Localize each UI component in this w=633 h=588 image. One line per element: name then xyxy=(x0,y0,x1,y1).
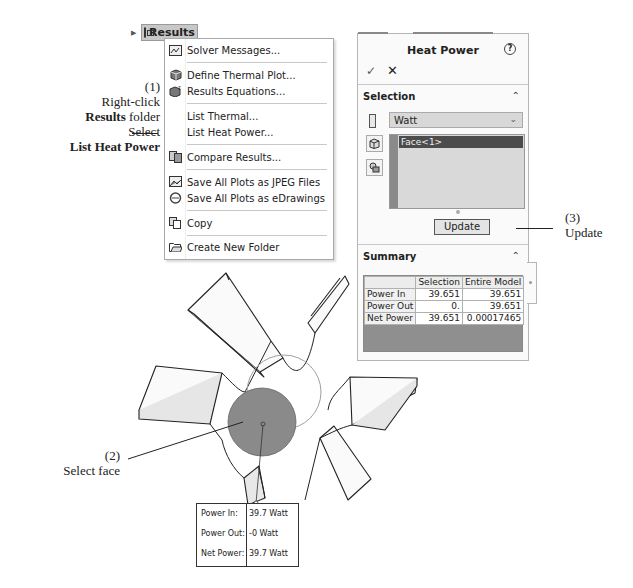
tooltip-value: -0 Watt xyxy=(249,528,278,540)
tooltip-label: Power In: xyxy=(201,508,238,520)
tooltip-row: Power In: 39.7 Watt xyxy=(197,508,298,520)
tooltip-row: Power Out: -0 Watt xyxy=(197,528,298,540)
model-viewport[interactable] xyxy=(0,0,633,588)
tooltip-value: 39.7 Watt xyxy=(249,548,288,560)
tooltip-label: Net Power: xyxy=(201,548,244,560)
tooltip-value: 39.7 Watt xyxy=(249,508,288,520)
callout-step-2-number: (2) xyxy=(60,448,120,463)
callout-step-2: (2) Select face xyxy=(60,448,120,478)
tooltip-row: Net Power: 39.7 Watt xyxy=(197,548,298,560)
tooltip-label: Power Out: xyxy=(201,528,245,540)
callout-step-2-text: Select face xyxy=(60,463,120,478)
heat-power-result-tooltip: Power In: 39.7 Watt Power Out: -0 Watt N… xyxy=(196,503,299,567)
